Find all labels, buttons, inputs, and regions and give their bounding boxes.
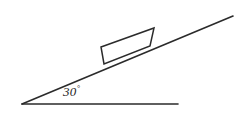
figure-canvas bbox=[0, 0, 243, 114]
block-on-incline bbox=[101, 28, 154, 64]
angle-label-30-degrees: 30° bbox=[63, 85, 80, 98]
inclined-plane-figure: 30° bbox=[0, 0, 243, 114]
degree-symbol-icon: ° bbox=[77, 84, 80, 93]
inclined-plane-surface bbox=[22, 16, 233, 104]
angle-value: 30 bbox=[63, 84, 76, 99]
